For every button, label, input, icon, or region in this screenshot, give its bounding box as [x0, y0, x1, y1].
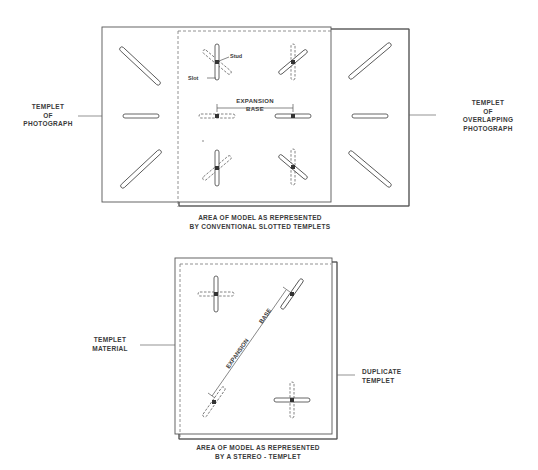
stud-label: Stud: [230, 53, 242, 59]
templet-diagram: EXPANSION BASE: [0, 0, 538, 470]
top-diagram: [78, 27, 436, 207]
templet-material-label: TEMPLET MATERIAL: [80, 336, 140, 353]
conventional-templets-caption: AREA OF MODEL AS REPRESENTED BY CONVENTI…: [170, 214, 350, 231]
bottom-diagram: EXPANSION BASE: [140, 258, 355, 439]
expansion-base-label: EXPANSION BASE: [230, 98, 280, 113]
slot-label: Slot: [188, 75, 198, 81]
templet-material-box: [175, 258, 332, 434]
stereo-templet-caption: AREA OF MODEL AS REPRESENTED BY A STEREO…: [178, 444, 338, 461]
templet-of-photograph-label: TEMPLET OF PHOTOGRAPH: [18, 103, 78, 129]
duplicate-templet-label: DUPLICATE TEMPLET: [362, 368, 408, 385]
templet-of-overlapping-photograph-label: TEMPLET OF OVERLAPPING PHOTOGRAPH: [452, 99, 524, 133]
